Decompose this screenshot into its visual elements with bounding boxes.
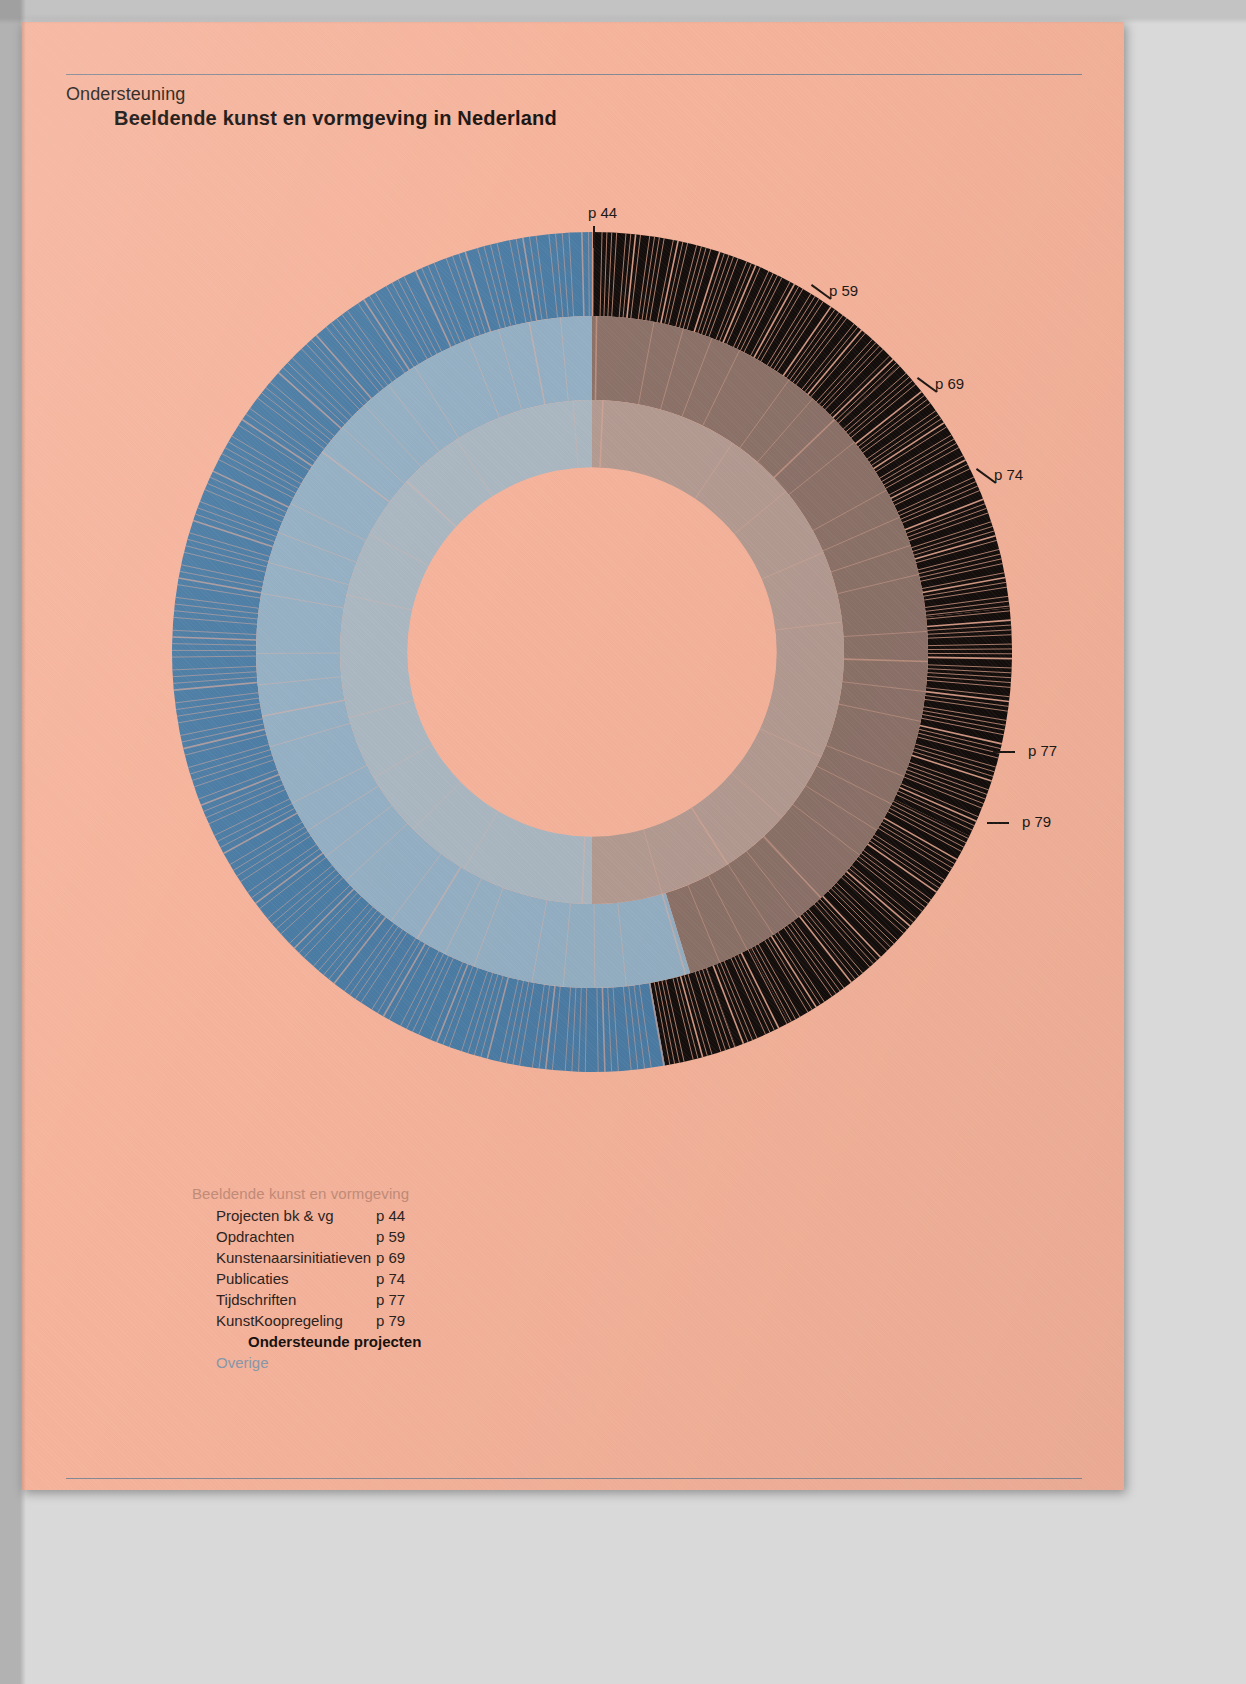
chart-callout: p 77 (1028, 742, 1057, 759)
chart-callout: p 59 (829, 282, 858, 299)
legend-item-label: Tijdschriften (216, 1291, 296, 1308)
chart-callout: p 74 (994, 466, 1023, 483)
donut-hole (408, 468, 776, 836)
legend-other: Overige (192, 1352, 492, 1373)
page-kicker: Ondersteuning (66, 84, 185, 105)
legend-item: Projecten bk & vgp 44 (192, 1205, 492, 1226)
page-title: Beeldende kunst en vormgeving in Nederla… (114, 107, 557, 130)
chart-callout: p 79 (1022, 813, 1051, 830)
header-rule (66, 74, 1082, 75)
legend-heading: Beeldende kunst en vormgeving (192, 1185, 492, 1202)
chart-legend: Beeldende kunst en vormgeving Projecten … (192, 1185, 492, 1373)
legend-item: Kunstenaarsinitiatievenp 69 (192, 1247, 492, 1268)
legend-item-label: KunstKoopregeling (216, 1312, 343, 1329)
footer-rule (66, 1478, 1082, 1479)
callout-leader-line (993, 751, 1015, 753)
legend-item: Publicatiesp 74 (192, 1268, 492, 1289)
legend-item-label: Projecten bk & vg (216, 1207, 334, 1224)
legend-item-label: Opdrachten (216, 1228, 294, 1245)
legend-item-page: p 77 (376, 1289, 405, 1310)
legend-item: Tijdschriftenp 77 (192, 1289, 492, 1310)
legend-item-page: p 44 (376, 1205, 405, 1226)
scan-page: Ondersteuning Beeldende kunst en vormgev… (0, 0, 1246, 1684)
legend-item-label: Publicaties (216, 1270, 289, 1287)
legend-item-page: p 69 (376, 1247, 405, 1268)
legend-item-page: p 59 (376, 1226, 405, 1247)
chart-callout: p 69 (935, 375, 964, 392)
legend-item-page: p 79 (376, 1310, 405, 1331)
legend-item: KunstKoopregelingp 79 (192, 1310, 492, 1331)
callout-leader-line (593, 226, 595, 248)
legend-item: Opdrachtenp 59 (192, 1226, 492, 1247)
printed-sheet: Ondersteuning Beeldende kunst en vormgev… (22, 22, 1124, 1490)
sunburst-chart (172, 222, 1012, 1082)
legend-emphasis: Ondersteunde projecten (192, 1331, 492, 1352)
legend-item-page: p 74 (376, 1268, 405, 1289)
legend-item-label: Kunstenaarsinitiatieven (216, 1249, 371, 1266)
chart-callout: p 44 (588, 204, 617, 221)
callout-leader-line (987, 822, 1009, 824)
sunburst-svg (172, 222, 1012, 1082)
